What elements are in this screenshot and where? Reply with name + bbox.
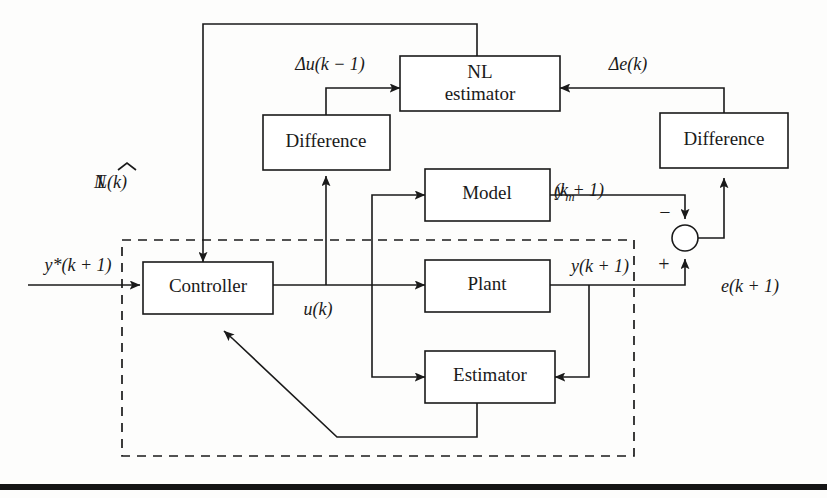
label-control-signal: u(k) xyxy=(304,299,333,320)
label-model-output-tail: (k + 1) xyxy=(554,180,604,201)
wire-error-to-difference-right xyxy=(697,178,724,238)
summing-junction xyxy=(672,225,698,251)
junction-minus-sign: − xyxy=(659,201,670,223)
block-nl-estimator-label-line2: estimator xyxy=(445,83,516,104)
wire-estimator-output-into-controller xyxy=(224,331,233,339)
wire-u-to-estimator xyxy=(372,285,425,377)
label-error-signal: e(k + 1) xyxy=(721,276,779,297)
block-difference-right-label: Difference xyxy=(684,128,765,149)
label-delta-e: Δe(k) xyxy=(608,54,648,75)
block-model-label: Model xyxy=(462,182,512,203)
block-nl-estimator-label-line1: NL xyxy=(467,61,492,82)
wire-plant-output-to-estimator xyxy=(555,285,589,377)
block-plant-label: Plant xyxy=(467,273,507,294)
page-bottom-rule xyxy=(0,484,827,490)
label-delta-u: Δu(k − 1) xyxy=(294,54,365,75)
label-plant-output: y(k + 1) xyxy=(569,256,629,277)
label-reference-signal: y*(k + 1) xyxy=(42,255,111,276)
figure-canvas: NL estimator Difference Difference Model… xyxy=(0,0,827,498)
label-nl-estimate-suffix: L(k) xyxy=(96,172,127,193)
wire-delta-e-to-nl-estimator xyxy=(560,88,724,113)
label-nl-estimate: N L(k) xyxy=(93,163,136,193)
label-model-output: y m (k + 1) xyxy=(554,180,604,204)
block-controller-label: Controller xyxy=(169,275,248,296)
block-estimator-label: Estimator xyxy=(453,364,528,385)
block-diagram-svg: NL estimator Difference Difference Model… xyxy=(0,0,827,498)
wire-delta-u-to-nl-estimator xyxy=(326,88,400,115)
nl-hat-caret-icon xyxy=(118,163,136,170)
junction-plus-sign: + xyxy=(658,253,669,275)
block-difference-left-label: Difference xyxy=(286,130,367,151)
